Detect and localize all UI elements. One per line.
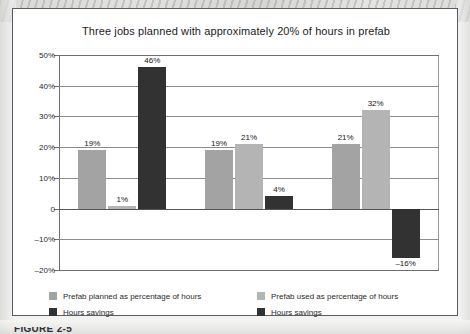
legend-item: Hours savings <box>257 305 398 319</box>
legend-column-right: Prefab used as percentage of hoursHours … <box>257 289 398 321</box>
bar <box>108 206 136 209</box>
legend-swatch-icon <box>49 292 57 300</box>
y-axis-tick-label: –10% <box>19 235 55 244</box>
bar <box>392 209 420 258</box>
legend-item: Hours savings <box>49 305 201 319</box>
bar-value-label: 32% <box>368 99 384 108</box>
bar-value-label: 21% <box>241 133 257 142</box>
bar-value-label: 1% <box>117 195 129 204</box>
legend-label: Hours savings <box>271 308 322 317</box>
y-axis-tick-label: 30% <box>19 112 55 121</box>
bar <box>362 110 390 208</box>
bar <box>332 144 360 209</box>
figure-caption-text: FIGURE 2-5 <box>14 327 72 334</box>
legend-swatch-icon <box>257 308 265 316</box>
y-axis-tick-label: 40% <box>19 81 55 90</box>
bars-layer: 19%1%46%19%21%4%21%32%–16% <box>59 47 439 281</box>
scan-texture-right <box>456 0 470 334</box>
y-axis-tick-label: 0 <box>19 204 55 213</box>
legend-item: Prefab planned as percentage of hours <box>49 289 201 303</box>
chart-title: Three jobs planned with approximately 20… <box>13 25 459 37</box>
y-axis-tick-label: 20% <box>19 143 55 152</box>
bar-value-label: 46% <box>144 56 160 65</box>
legend-item: Prefab used as percentage of hours <box>257 289 398 303</box>
bar-value-label: –16% <box>395 259 415 268</box>
bar <box>265 196 293 208</box>
legend-column-left: Prefab planned as percentage of hoursHou… <box>49 289 201 321</box>
legend-label: Prefab used as percentage of hours <box>271 292 398 301</box>
bar-value-label: 4% <box>273 185 285 194</box>
figure-card: Three jobs planned with approximately 20… <box>12 8 458 316</box>
legend-swatch-icon <box>257 292 265 300</box>
figure-caption-sliver: FIGURE 2-5 <box>14 327 314 334</box>
bar <box>235 144 263 209</box>
chart-legend: Prefab planned as percentage of hoursHou… <box>49 289 449 319</box>
legend-swatch-icon <box>49 308 57 316</box>
chart-plot-area: 50%40%30%20%10%0–10%–20% 19%1%46%19%21%4… <box>47 47 445 281</box>
bar-value-label: 19% <box>211 139 227 148</box>
legend-label: Hours savings <box>63 308 114 317</box>
y-axis-tick-label: 10% <box>19 173 55 182</box>
bar <box>205 150 233 208</box>
bar-value-label: 21% <box>338 133 354 142</box>
bar <box>138 67 166 208</box>
y-axis-tick-label: –20% <box>19 266 55 275</box>
legend-label: Prefab planned as percentage of hours <box>63 292 201 301</box>
bar-value-label: 19% <box>84 139 100 148</box>
bar <box>78 150 106 208</box>
y-axis-tick-label: 50% <box>19 51 55 60</box>
